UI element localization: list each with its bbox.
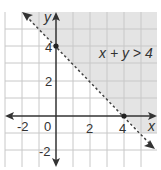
y-axis-label: y xyxy=(43,9,52,25)
point-y-intercept xyxy=(53,43,58,48)
tick-y-2: 2 xyxy=(45,74,52,89)
tick-y-neg2: -2 xyxy=(39,144,51,159)
tick-x-neg2: -2 xyxy=(17,119,29,134)
tick-y-4: 4 xyxy=(45,40,52,55)
inequality-label: x + y > 4 xyxy=(98,45,153,61)
tick-x-4: 4 xyxy=(119,121,126,136)
tick-x-0: 0 xyxy=(44,119,51,134)
inequality-graph: y x x + y > 4 -2 0 2 4 4 2 -2 xyxy=(0,0,161,170)
x-axis-label: x xyxy=(147,118,156,134)
point-x-intercept xyxy=(121,113,126,118)
tick-x-2: 2 xyxy=(86,121,93,136)
